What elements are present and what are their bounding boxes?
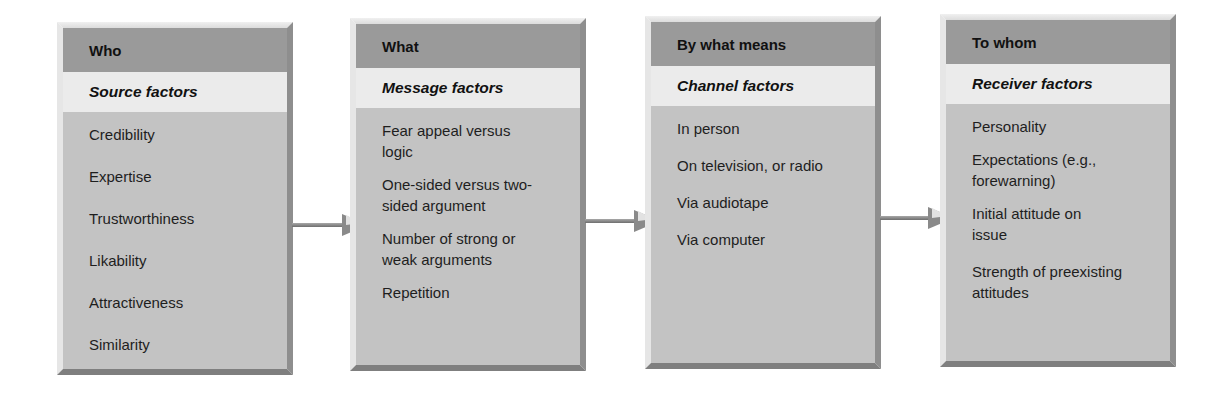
factor-item: Trustworthiness: [89, 208, 277, 229]
factor-item: Expectations (e.g., forewarning): [972, 149, 1140, 191]
bevel: [645, 363, 881, 369]
factor-item: Initial attitude on issue: [972, 203, 1140, 245]
box-by-what-means: By what means Channel factors In person …: [645, 16, 881, 369]
factor-list: Credibility Expertise Trustworthiness Li…: [63, 112, 287, 355]
box-subheader: Channel factors: [651, 66, 875, 106]
bevel: [287, 22, 293, 375]
box-to-whom: To whom Receiver factors Personality Exp…: [940, 14, 1176, 367]
factor-item: Expertise: [89, 166, 277, 187]
bevel: [350, 365, 586, 371]
bevel: [1170, 14, 1176, 367]
factor-item: Fear appeal versus logic: [382, 120, 540, 162]
factor-list: Fear appeal versus logic One-sided versu…: [356, 108, 580, 303]
bevel: [580, 18, 586, 371]
box-what: What Message factors Fear appeal versus …: [350, 18, 586, 371]
box-header: To whom: [946, 20, 1170, 64]
box-header: Who: [63, 28, 287, 72]
box-subheader: Message factors: [356, 68, 580, 108]
box-header: What: [356, 24, 580, 68]
factor-item: In person: [677, 118, 871, 139]
factor-item: Attractiveness: [89, 292, 277, 313]
factor-item: Repetition: [382, 282, 540, 303]
factor-item: On television, or radio: [677, 155, 871, 176]
box-subheader: Receiver factors: [946, 64, 1170, 104]
factor-item: Number of strong or weak arguments: [382, 228, 540, 270]
factor-item: Strength of preexisting attitudes: [972, 261, 1140, 303]
factor-list: In person On television, or radio Via au…: [651, 106, 875, 250]
bevel: [940, 361, 1176, 367]
factor-item: Personality: [972, 116, 1140, 137]
factor-item: Credibility: [89, 124, 277, 145]
factor-item: Likability: [89, 250, 277, 271]
box-body: To whom Receiver factors Personality Exp…: [946, 20, 1170, 361]
bevel: [875, 16, 881, 369]
factor-item: One-sided versus two-sided argument: [382, 174, 540, 216]
factor-item: Similarity: [89, 334, 277, 355]
box-subheader: Source factors: [63, 72, 287, 112]
factor-item: Via computer: [677, 229, 871, 250]
box-body: Who Source factors Credibility Expertise…: [63, 28, 287, 369]
bevel: [57, 369, 293, 375]
factor-item: Via audiotape: [677, 192, 871, 213]
box-who: Who Source factors Credibility Expertise…: [57, 22, 293, 375]
box-body: By what means Channel factors In person …: [651, 22, 875, 363]
box-header: By what means: [651, 22, 875, 66]
box-body: What Message factors Fear appeal versus …: [356, 24, 580, 365]
factor-list: Personality Expectations (e.g., forewarn…: [946, 104, 1170, 303]
